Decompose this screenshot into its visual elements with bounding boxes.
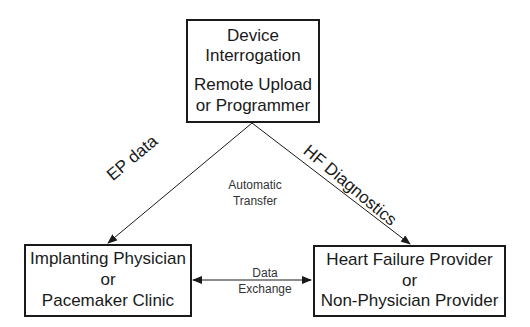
left-box-line2: or [100,270,115,291]
automatic-text: Automatic [210,178,300,194]
left-box-line3: Pacemaker Clinic [42,291,174,312]
transfer-text: Transfer [210,194,300,210]
data-text: Data [220,265,310,281]
data-exchange-label: Data Exchange [220,265,310,297]
right-box-line2: or [402,271,417,292]
top-box-line1: Device [227,26,279,47]
right-box-line1: Heart Failure Provider [326,250,492,271]
left-box-line1: Implanting Physician [30,249,186,270]
heart-failure-provider-box: Heart Failure Provider or Non-Physician … [313,245,506,317]
device-interrogation-box: Device Interrogation Remote Upload or Pr… [186,19,320,123]
top-box-line2: Interrogation [205,46,300,67]
implanting-physician-box: Implanting Physician or Pacemaker Clinic [24,244,192,317]
exchange-text: Exchange [220,281,310,297]
right-box-line3: Non-Physician Provider [321,291,499,312]
top-box-line3: Remote Upload [194,75,312,96]
top-box-line4: or Programmer [196,96,310,117]
automatic-transfer-label: Automatic Transfer [210,178,300,209]
